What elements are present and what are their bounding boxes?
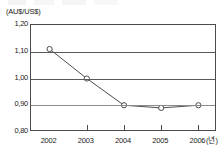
data-point-marker [47, 46, 52, 51]
x-axis-tick-mark [198, 125, 199, 130]
x-axis-tick-mark [161, 125, 162, 130]
data-point-marker [159, 105, 164, 110]
y-axis-tick-label: 1,00 [2, 74, 28, 82]
x-axis-tick-mark [87, 125, 88, 130]
gridline [31, 52, 215, 53]
y-axis-tick-label: 0,90 [2, 100, 28, 108]
x-axis-unit-label: (년) [206, 136, 218, 145]
plot-area [30, 24, 216, 131]
x-axis-tick-label: 2003 [66, 136, 106, 145]
gridline [31, 79, 215, 80]
y-axis-tick-label: 0,80 [2, 127, 28, 135]
x-axis-tick-label: 2002 [29, 136, 69, 145]
x-axis-tick-mark [124, 125, 125, 130]
exchange-rate-line-chart: (AU$/US$) 1,201,101,000,900,80 200220032… [0, 0, 224, 155]
y-axis-tick-label: 1,20 [2, 20, 28, 28]
x-axis-tick-label: 2004 [103, 136, 143, 145]
y-axis-tick-label: 1,10 [2, 47, 28, 55]
gridline [31, 105, 215, 106]
y-axis-unit-label: (AU$/US$) [6, 7, 40, 16]
clipped-header-artifact [8, 0, 148, 5]
x-axis-tick-label: 2005 [140, 136, 180, 145]
